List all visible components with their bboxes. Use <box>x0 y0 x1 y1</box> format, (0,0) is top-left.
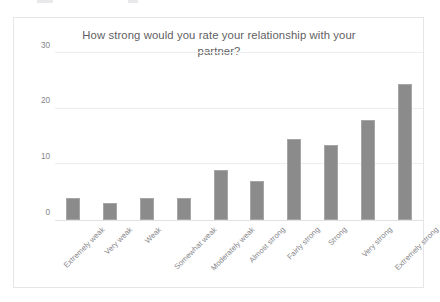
bar-slot <box>165 53 202 220</box>
bar-slot <box>239 53 276 220</box>
plot-area: 0102030 <box>55 53 423 221</box>
x-label-slot: Weak <box>129 223 166 287</box>
chart-title-line-1: How strong would you rate your relations… <box>54 28 384 44</box>
x-axis-tick-label: Weak <box>143 225 163 245</box>
x-label-slot: Extremely strong <box>386 223 423 287</box>
bar <box>177 198 191 220</box>
x-label-slot: Fairly strong <box>276 223 313 287</box>
bar-slot <box>349 53 386 220</box>
axis-baseline <box>55 220 423 221</box>
bar-slot <box>276 53 313 220</box>
x-axis-category-labels: Extremely weakVery weakWeakSomewhat weak… <box>55 223 423 287</box>
bar-slot <box>202 53 239 220</box>
bar-slot <box>92 53 129 220</box>
x-axis-tick-label: Strong <box>326 225 348 247</box>
cropped-text-artifacts <box>0 0 437 6</box>
x-label-slot: Strong <box>313 223 350 287</box>
x-label-slot: Somewhat weak <box>165 223 202 287</box>
x-label-slot: Very weak <box>92 223 129 287</box>
bar-slot <box>313 53 350 220</box>
y-axis-tick-label: 30 <box>41 40 50 49</box>
x-label-slot: Very strong <box>349 223 386 287</box>
bar-slot <box>55 53 92 220</box>
chart-container: How strong would you rate your relations… <box>13 17 424 288</box>
bar <box>287 139 301 220</box>
bar <box>103 203 117 220</box>
bar <box>140 198 154 220</box>
x-label-slot: Moderately weak <box>202 223 239 287</box>
bar <box>324 145 338 220</box>
bar-slot <box>129 53 166 220</box>
x-label-slot: Extremely weak <box>55 223 92 287</box>
bar <box>66 198 80 220</box>
bar <box>214 170 228 220</box>
x-axis-tick-label: Extremely strong <box>393 225 440 272</box>
y-axis-tick-label: 20 <box>41 96 50 105</box>
bar <box>398 84 412 220</box>
bar-series <box>55 53 423 220</box>
x-label-slot: Almost strong <box>239 223 276 287</box>
bar <box>250 181 264 220</box>
y-axis-tick-label: 10 <box>41 151 50 160</box>
bar <box>361 120 375 220</box>
bar-slot <box>386 53 423 220</box>
y-axis-tick-label: 0 <box>45 207 50 216</box>
